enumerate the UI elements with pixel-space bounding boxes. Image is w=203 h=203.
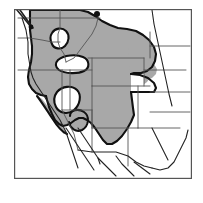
range-map-canvas [0, 0, 203, 203]
locality-point-northwest [29, 25, 34, 30]
locality-point-north [94, 11, 100, 17]
range-map-figure [0, 0, 203, 203]
unshaded-enclave-snake-river-plain [56, 55, 89, 73]
